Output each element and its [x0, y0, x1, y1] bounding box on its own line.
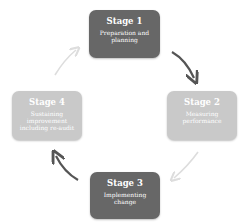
stage-1-title: Stage 1	[89, 16, 160, 27]
stage-2-box: Stage 2 Measuring performance	[167, 91, 237, 140]
stage-2-description: Measuring performance	[167, 110, 237, 124]
arrow-stage3-to-stage4	[56, 156, 78, 180]
stage-1-description: Preparation and planning	[89, 29, 160, 43]
stage-4-box: Stage 4 Sustaining improvement including…	[12, 91, 82, 140]
stage-4-title: Stage 4	[12, 97, 82, 108]
stage-3-box: Stage 3 Implementing change	[90, 172, 160, 219]
arrow-stage1-to-stage2	[172, 52, 194, 78]
stage-3-title: Stage 3	[90, 178, 160, 189]
stage-4-description: Sustaining improvement including re-audi…	[12, 110, 82, 131]
arrow-stage2-to-stage3	[174, 152, 198, 178]
stage-1-box: Stage 1 Preparation and planning	[89, 10, 160, 58]
arrow-stage4-to-stage1	[55, 50, 76, 75]
stage-3-description: Implementing change	[90, 191, 160, 205]
stage-2-title: Stage 2	[167, 97, 237, 108]
